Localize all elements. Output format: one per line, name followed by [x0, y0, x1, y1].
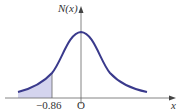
origin-label: O — [77, 100, 85, 111]
plot-area — [0, 0, 178, 111]
normal-curve — [18, 32, 147, 92]
cutoff-tick-label: −0.86 — [36, 100, 61, 111]
x-axis-label: x — [171, 100, 176, 111]
y-axis-arrow-icon — [79, 6, 84, 13]
normal-distribution-diagram: N(x) x −0.86 O — [0, 0, 178, 111]
y-axis-label: N(x) — [58, 3, 78, 14]
